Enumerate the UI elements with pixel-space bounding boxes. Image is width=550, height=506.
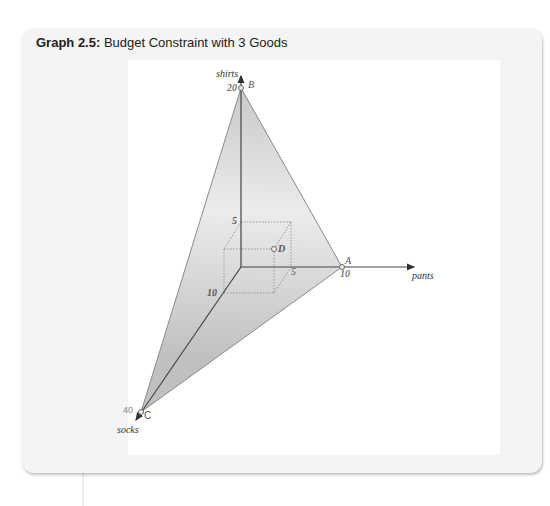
point-D-label: D (278, 243, 285, 254)
shirts-axis-label: shirts (216, 68, 238, 79)
box-tick-socks: 10 (207, 287, 217, 298)
point-B-value: 20 (227, 82, 237, 93)
pants-axis-label: pants (412, 270, 434, 281)
point-B-label: B (248, 79, 254, 90)
point-C-label: C (144, 410, 151, 421)
point-A-value: 10 (340, 268, 350, 279)
point-A-label: A (345, 255, 351, 266)
budget-constraint-graph (0, 0, 550, 506)
box-tick-shirts: 5 (232, 215, 237, 226)
box-tick-pants: 5 (291, 266, 296, 277)
point-B (239, 86, 244, 91)
socks-axis-label: socks (117, 424, 139, 435)
point-C (139, 410, 144, 415)
point-D (272, 247, 277, 252)
point-C-value: 40 (123, 405, 133, 415)
